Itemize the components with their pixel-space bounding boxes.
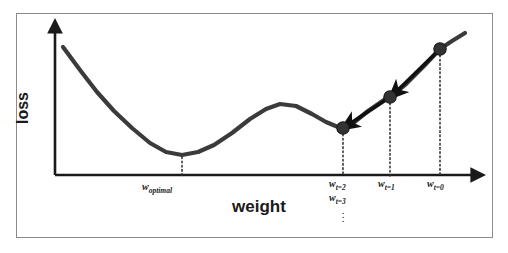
tick-label-w-t1-base: w xyxy=(378,178,385,189)
loss-curve xyxy=(63,33,465,155)
tick-label-w-t0-base: w xyxy=(427,178,434,189)
figure-root: loss weight woptimal wt=2 wt=3 wt=1 wt=0… xyxy=(0,0,508,253)
marker-w-t1 xyxy=(384,91,396,103)
tick-label-w-t2-base: w xyxy=(329,178,336,189)
tick-label-w-t0: wt=0 xyxy=(427,178,444,192)
marker-w-t0 xyxy=(434,43,446,55)
tick-label-w-optimal: woptimal xyxy=(142,181,172,195)
tick-label-w-optimal-sub: optimal xyxy=(149,186,172,195)
tick-label-w-optimal-base: w xyxy=(142,181,149,192)
gradient-descent-arrows xyxy=(348,51,438,125)
tick-label-w-t1-sub: t=1 xyxy=(385,183,395,192)
vertical-ellipsis: . . . xyxy=(337,208,349,220)
y-axis-label: loss xyxy=(14,92,32,124)
x-axis-label: weight xyxy=(232,197,286,217)
tick-label-w-t2-sub: t=2 xyxy=(336,183,346,192)
descent-arrow-step-2 xyxy=(348,98,388,125)
descent-arrow-step-1 xyxy=(395,51,438,93)
ellipsis-dot-3: . xyxy=(337,216,349,220)
tick-label-w-t0-sub: t=0 xyxy=(434,183,444,192)
tick-label-w-t3-base: w xyxy=(329,192,336,203)
tick-label-w-t3-sub: t=3 xyxy=(336,197,346,206)
tick-label-w-t1: wt=1 xyxy=(378,178,395,192)
marker-w-t2 xyxy=(337,122,349,134)
tick-label-w-t2: wt=2 xyxy=(329,178,346,192)
